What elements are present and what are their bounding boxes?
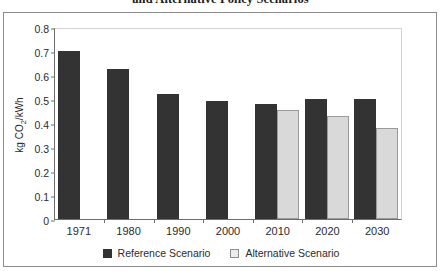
bar-group-2010 <box>253 29 302 219</box>
y-axis-tick-mark <box>51 101 55 102</box>
figure-border-box: kg CO2/kWh 0.80.70.60.50.40.30.20.10 197… <box>3 12 437 267</box>
bar-group-1990 <box>154 29 203 219</box>
x-axis-label-2000: 2000 <box>203 225 253 237</box>
x-axis-label-1990: 1990 <box>153 225 203 237</box>
bar-alternative-2030 <box>376 128 398 219</box>
legend-item-alternative[interactable]: Alternative Scenario <box>230 247 339 259</box>
y-axis-tick-mark <box>51 53 55 54</box>
x-axis-labels: 1971198019902000201020202030 <box>54 225 402 237</box>
y-axis-title-suffix: /kWh <box>14 97 25 120</box>
legend-item-reference[interactable]: Reference Scenario <box>103 247 211 259</box>
bar-columns <box>55 29 401 219</box>
bar-group-2030 <box>352 29 401 219</box>
bar-reference-1971 <box>58 51 80 219</box>
page-title: and Alternative Policy Scenarios <box>0 0 441 7</box>
y-axis-tick-mark <box>51 197 55 198</box>
y-axis-title: kg CO2/kWh <box>14 80 28 170</box>
x-axis-label-2030: 2030 <box>352 225 402 237</box>
y-axis-title-prefix: kg CO <box>14 124 25 152</box>
y-axis-tick-mark <box>51 173 55 174</box>
y-axis-tick-mark <box>51 29 55 30</box>
chart-title-strip: and Alternative Policy Scenarios <box>0 0 441 11</box>
chart-figure: and Alternative Policy Scenarios kg CO2/… <box>0 0 441 271</box>
plot-area: 0.80.70.60.50.40.30.20.10 <box>54 28 402 220</box>
bar-reference-2000 <box>206 101 228 219</box>
bar-alternative-2010 <box>277 110 299 219</box>
bar-reference-2020 <box>305 99 327 219</box>
x-axis-label-2020: 2020 <box>303 225 353 237</box>
chart-legend: Reference ScenarioAlternative Scenario <box>4 247 438 259</box>
y-axis-tick-mark <box>51 221 55 222</box>
bar-reference-2010 <box>255 104 277 219</box>
x-axis-label-2010: 2010 <box>253 225 303 237</box>
legend-label: Reference Scenario <box>118 247 211 259</box>
y-axis-tick-mark <box>51 125 55 126</box>
bar-reference-1980 <box>107 69 129 219</box>
y-axis-tick-mark <box>51 77 55 78</box>
bar-reference-1990 <box>157 94 179 219</box>
bar-group-1980 <box>104 29 153 219</box>
plot-wrapper: kg CO2/kWh 0.80.70.60.50.40.30.20.10 197… <box>4 13 438 268</box>
bar-group-2000 <box>203 29 252 219</box>
x-axis-label-1980: 1980 <box>104 225 154 237</box>
x-axis-label-1971: 1971 <box>54 225 104 237</box>
bar-group-2020 <box>302 29 351 219</box>
legend-label: Alternative Scenario <box>245 247 339 259</box>
bar-alternative-2020 <box>327 116 349 219</box>
y-axis-tick-mark <box>51 149 55 150</box>
light-square-icon <box>230 249 239 258</box>
bar-reference-2030 <box>354 99 376 219</box>
bar-group-1971 <box>55 29 104 219</box>
dark-square-icon <box>103 249 112 258</box>
y-axis-title-subscript: 2 <box>19 120 28 124</box>
